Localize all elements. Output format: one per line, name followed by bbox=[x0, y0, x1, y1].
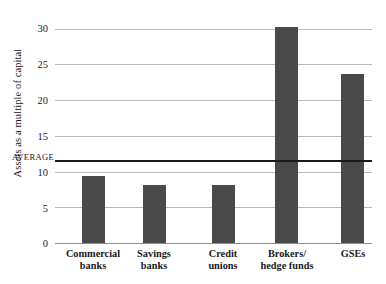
y-tick-label-0: 0 bbox=[8, 239, 48, 249]
bar-commercial-banks bbox=[82, 176, 105, 243]
bar-chart: Assets as a multiple of capital 30 25 20… bbox=[0, 0, 386, 284]
y-tick-label-15: 15 bbox=[8, 132, 48, 142]
gridline-20 bbox=[55, 100, 372, 101]
x-category-label-gses: GSEs bbox=[305, 248, 386, 260]
y-axis-title: Assets as a multiple of capital bbox=[10, 13, 26, 213]
y-tick-label-10: 10 bbox=[8, 168, 48, 178]
x-category-line-2: hedge funds bbox=[239, 260, 335, 272]
y-tick-label-5: 5 bbox=[8, 204, 48, 214]
gridline-30 bbox=[55, 29, 372, 30]
average-line-label: AVERAGE bbox=[0, 153, 54, 162]
gridline-10 bbox=[55, 172, 372, 173]
average-reference-line bbox=[55, 160, 372, 162]
bar-gses bbox=[341, 74, 364, 243]
y-tick-label-30: 30 bbox=[8, 24, 48, 34]
gridline-zero-baseline bbox=[55, 243, 372, 244]
gridline-25 bbox=[55, 64, 372, 65]
bar-brokers-hedge-funds bbox=[275, 27, 298, 243]
bar-savings-banks bbox=[143, 185, 166, 243]
plot-area bbox=[55, 14, 372, 243]
y-tick-label-25: 25 bbox=[8, 60, 48, 70]
bar-credit-unions bbox=[212, 185, 235, 243]
gridline-15 bbox=[55, 136, 372, 137]
y-tick-label-20: 20 bbox=[8, 96, 48, 106]
x-category-line-1: GSEs bbox=[305, 248, 386, 260]
